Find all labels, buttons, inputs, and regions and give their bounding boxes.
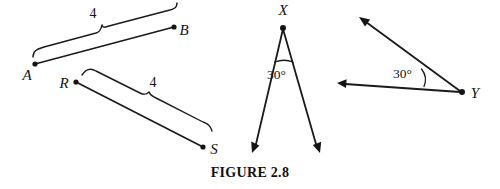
angle-x-measure-label: 30° [267,67,286,82]
point-s-dot [200,144,205,149]
figure-caption: FIGURE 2.8 [211,165,289,180]
segment-rs-measure-label: 4 [150,75,157,90]
point-a-label: A [21,67,32,83]
ray-y-upper-arrowhead [359,17,370,27]
figure-container: A B 4 R S 4 X 30° [0,0,500,189]
angle-x-arc [275,60,293,62]
segment-rs-group: R S 4 [58,69,218,157]
angle-y-arc [422,69,426,87]
point-x-label: X [277,2,288,18]
point-s-label: S [210,141,218,157]
ray-y-lower [345,84,460,92]
point-b-dot [171,24,176,29]
angle-x-group: X 30° [251,2,321,153]
ray-x-right-arrowhead [313,142,321,153]
geometry-figure-canvas: A B 4 R S 4 X 30° [0,0,500,189]
point-y-label: Y [471,85,481,101]
segment-ab-group: A B 4 [21,3,188,83]
angle-y-measure-label: 30° [393,66,412,81]
ray-x-right [283,29,316,144]
point-r-label: R [58,75,68,91]
ray-y-lower-arrowhead [337,79,347,88]
point-r-dot [73,79,78,84]
angle-y-group: Y 30° [337,17,481,101]
point-a-dot [32,61,37,66]
segment-ab-measure-label: 4 [90,6,97,21]
point-b-label: B [179,22,188,38]
segment-rs-line [76,82,203,147]
ray-y-upper [366,22,460,91]
segment-ab-brace [33,3,177,57]
segment-rs-brace [82,69,212,131]
segment-ab-line [35,27,174,64]
ray-x-left [256,29,283,144]
point-x-dot [280,25,286,31]
point-y-dot [459,89,465,95]
